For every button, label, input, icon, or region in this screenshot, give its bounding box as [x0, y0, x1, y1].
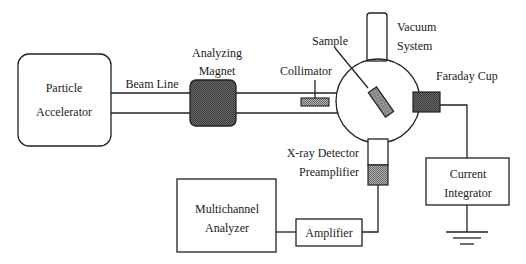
current-integrator-label-1: Current	[450, 167, 487, 181]
multichannel-analyzer: Multichannel Analyzer	[177, 179, 276, 252]
analyzing-magnet-box	[190, 80, 236, 126]
beam-line: Beam Line	[111, 77, 190, 113]
analyzing-magnet-label-1: Analyzing	[192, 46, 242, 60]
faraday-to-integrator-wire	[440, 105, 467, 158]
vacuum-system-label-1: Vacuum	[397, 20, 437, 34]
pixe-setup-diagram: Particle Accelerator Beam Line Analyzing…	[0, 0, 526, 264]
beam-line-label: Beam Line	[126, 77, 179, 91]
xray-detector: X-ray Detector Preamplifier	[287, 139, 388, 232]
faraday-cup-block	[413, 92, 440, 112]
particle-accelerator-box	[18, 54, 111, 146]
collimator-bar	[301, 98, 329, 106]
xray-detector-body	[368, 139, 388, 165]
collimator-label: Collimator	[280, 64, 332, 78]
vacuum-system-tube	[367, 13, 387, 63]
vacuum-system-label-2: System	[397, 39, 433, 53]
current-integrator: Current Integrator	[426, 158, 509, 205]
faraday-cup: Faraday Cup	[413, 69, 498, 158]
amplifier: Amplifier	[296, 219, 362, 246]
faraday-cup-label: Faraday Cup	[436, 69, 498, 83]
analyzing-magnet: Analyzing Magnet	[190, 46, 242, 126]
analyzing-magnet-label-2: Magnet	[199, 64, 236, 78]
particle-accelerator: Particle Accelerator	[18, 54, 111, 146]
xray-detector-label-1: X-ray Detector	[287, 146, 359, 160]
collimator: Collimator	[280, 64, 332, 106]
preamplifier-block	[368, 165, 388, 185]
current-integrator-label-2: Integrator	[444, 186, 491, 200]
multichannel-analyzer-label-1: Multichannel	[195, 202, 260, 216]
vacuum-system: Vacuum System	[367, 13, 437, 63]
xray-detector-label-2: Preamplifier	[299, 165, 359, 179]
ground-icon	[446, 205, 488, 244]
particle-accelerator-label-1: Particle	[46, 81, 83, 95]
amplifier-label: Amplifier	[305, 226, 352, 240]
detector-to-amplifier-wire	[362, 185, 378, 232]
particle-accelerator-label-2: Accelerator	[36, 105, 92, 119]
sample-label: Sample	[312, 34, 348, 48]
multichannel-analyzer-label-2: Analyzer	[205, 221, 249, 235]
